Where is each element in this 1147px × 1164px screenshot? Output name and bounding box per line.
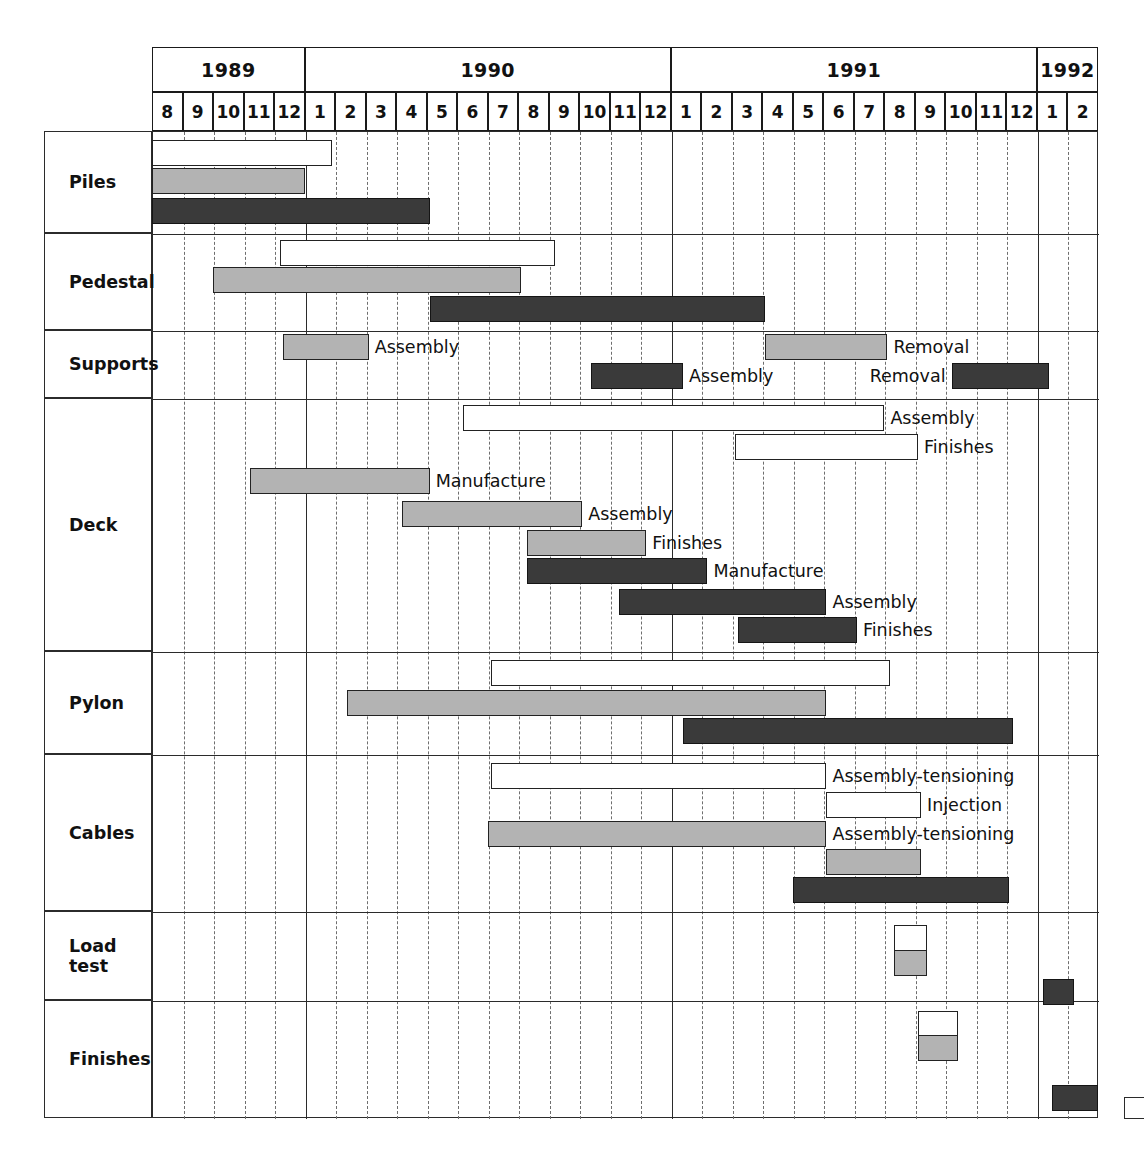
row-label-text: Finishes xyxy=(69,1049,151,1069)
gantt-bar xyxy=(430,296,766,322)
gantt-bar-label: Removal xyxy=(893,339,969,357)
gantt-bar xyxy=(1052,1085,1098,1111)
gantt-bar xyxy=(738,617,857,643)
month-tick-label: 10 xyxy=(216,102,240,122)
gantt-bar xyxy=(765,334,887,360)
month-tick-label: 2 xyxy=(344,102,356,122)
row-label-finishes: Finishes xyxy=(44,1000,152,1118)
year-label: 1991 xyxy=(827,59,881,81)
gantt-bar xyxy=(213,267,521,293)
row-divider-line xyxy=(153,234,1099,235)
month-grid-line xyxy=(580,132,581,1119)
month-header-cell-1: 9 xyxy=(183,92,214,131)
month-header-cell-19: 3 xyxy=(732,92,763,131)
month-header-cell-27: 11 xyxy=(976,92,1007,131)
month-tick-label: 3 xyxy=(375,102,387,122)
month-header-cell-5: 1 xyxy=(305,92,336,131)
year-divider-line xyxy=(672,132,673,1119)
month-tick-label: 6 xyxy=(466,102,478,122)
month-header-cell-4: 12 xyxy=(274,92,305,131)
month-header-cell-29: 1 xyxy=(1037,92,1068,131)
gantt-bar xyxy=(527,530,646,556)
month-tick-label: 11 xyxy=(613,102,637,122)
month-header-cell-26: 10 xyxy=(945,92,976,131)
row-divider-line xyxy=(153,755,1099,756)
gantt-bar xyxy=(152,198,430,224)
month-tick-label: 11 xyxy=(979,102,1003,122)
row-label-pylon: Pylon xyxy=(44,651,152,754)
gantt-bar xyxy=(918,1011,958,1037)
gantt-bar xyxy=(1043,979,1074,1005)
gantt-bar xyxy=(918,1035,958,1061)
gantt-bar xyxy=(793,877,1010,903)
month-header-cell-18: 2 xyxy=(701,92,732,131)
gantt-bar xyxy=(152,140,332,166)
month-tick-label: 11 xyxy=(247,102,271,122)
year-header-cell-1989: 1989 xyxy=(152,47,305,92)
row-divider-line xyxy=(153,652,1099,653)
gantt-bar-label: Assembly xyxy=(689,368,773,386)
gantt-bar-label: Finishes xyxy=(924,439,994,457)
gantt-bar-label: Injection xyxy=(927,797,1002,815)
month-header-cell-6: 2 xyxy=(335,92,366,131)
row-label-text: Deck xyxy=(69,515,117,535)
month-header-cell-2: 10 xyxy=(213,92,244,131)
row-label-cables: Cables xyxy=(44,754,152,911)
month-header-cell-10: 6 xyxy=(457,92,488,131)
month-header-cell-14: 10 xyxy=(579,92,610,131)
month-tick-label: 7 xyxy=(863,102,875,122)
gantt-bar xyxy=(894,925,928,951)
row-label-text: Pedestal xyxy=(69,272,155,292)
year-label: 1989 xyxy=(201,59,255,81)
month-grid-line xyxy=(702,132,703,1119)
month-header-cell-22: 6 xyxy=(823,92,854,131)
gantt-bar-label: Assembly xyxy=(588,506,672,524)
gantt-bar xyxy=(463,405,884,431)
year-divider-line xyxy=(1038,132,1039,1119)
month-grid-line xyxy=(184,132,185,1119)
month-tick-label: 2 xyxy=(1077,102,1089,122)
gantt-bar xyxy=(280,240,555,266)
gantt-bar xyxy=(735,434,918,460)
month-header-cell-3: 11 xyxy=(244,92,275,131)
month-header-cell-8: 4 xyxy=(396,92,427,131)
month-tick-label: 8 xyxy=(528,102,540,122)
month-grid-line xyxy=(1007,132,1008,1119)
row-label-text: Supports xyxy=(69,354,159,374)
month-grid-line xyxy=(550,132,551,1119)
month-tick-label: 3 xyxy=(741,102,753,122)
gantt-bar xyxy=(683,718,1013,744)
year-label: 1992 xyxy=(1040,59,1094,81)
gantt-bar xyxy=(894,950,928,976)
gantt-bar xyxy=(826,792,921,818)
year-header-cell-1992: 1992 xyxy=(1037,47,1098,92)
gantt-bar-label: Finishes xyxy=(652,535,722,553)
gantt-bar xyxy=(619,589,827,615)
row-divider-line xyxy=(153,331,1099,332)
gantt-bar-label: Manufacture xyxy=(436,473,546,491)
month-tick-label: 1 xyxy=(314,102,326,122)
row-label-load-test: Load test xyxy=(44,911,152,1000)
month-header-cell-23: 7 xyxy=(854,92,885,131)
month-header-cell-25: 9 xyxy=(915,92,946,131)
month-header-cell-16: 12 xyxy=(640,92,671,131)
month-header-cell-30: 2 xyxy=(1067,92,1098,131)
gantt-bar xyxy=(402,501,582,527)
gantt-chart: 1989199019911992891011121234567891011121… xyxy=(0,0,1147,1164)
month-grid-line xyxy=(611,132,612,1119)
year-header-cell-1991: 1991 xyxy=(671,47,1037,92)
gantt-bar xyxy=(347,690,826,716)
gantt-bar-label: Assembly xyxy=(832,594,916,612)
month-tick-label: 5 xyxy=(436,102,448,122)
gantt-bar-label: Finishes xyxy=(863,622,933,640)
month-tick-label: 2 xyxy=(711,102,723,122)
month-tick-label: 1 xyxy=(680,102,692,122)
row-divider-line xyxy=(153,399,1099,400)
gantt-bar-label: Assembly-tensioning xyxy=(832,768,1014,786)
gantt-bar xyxy=(826,849,921,875)
corner-bracket-mark xyxy=(1124,1097,1144,1119)
row-label-text: Load test xyxy=(69,936,151,976)
gantt-bar xyxy=(527,558,707,584)
month-tick-label: 4 xyxy=(772,102,784,122)
gantt-bar xyxy=(491,763,827,789)
